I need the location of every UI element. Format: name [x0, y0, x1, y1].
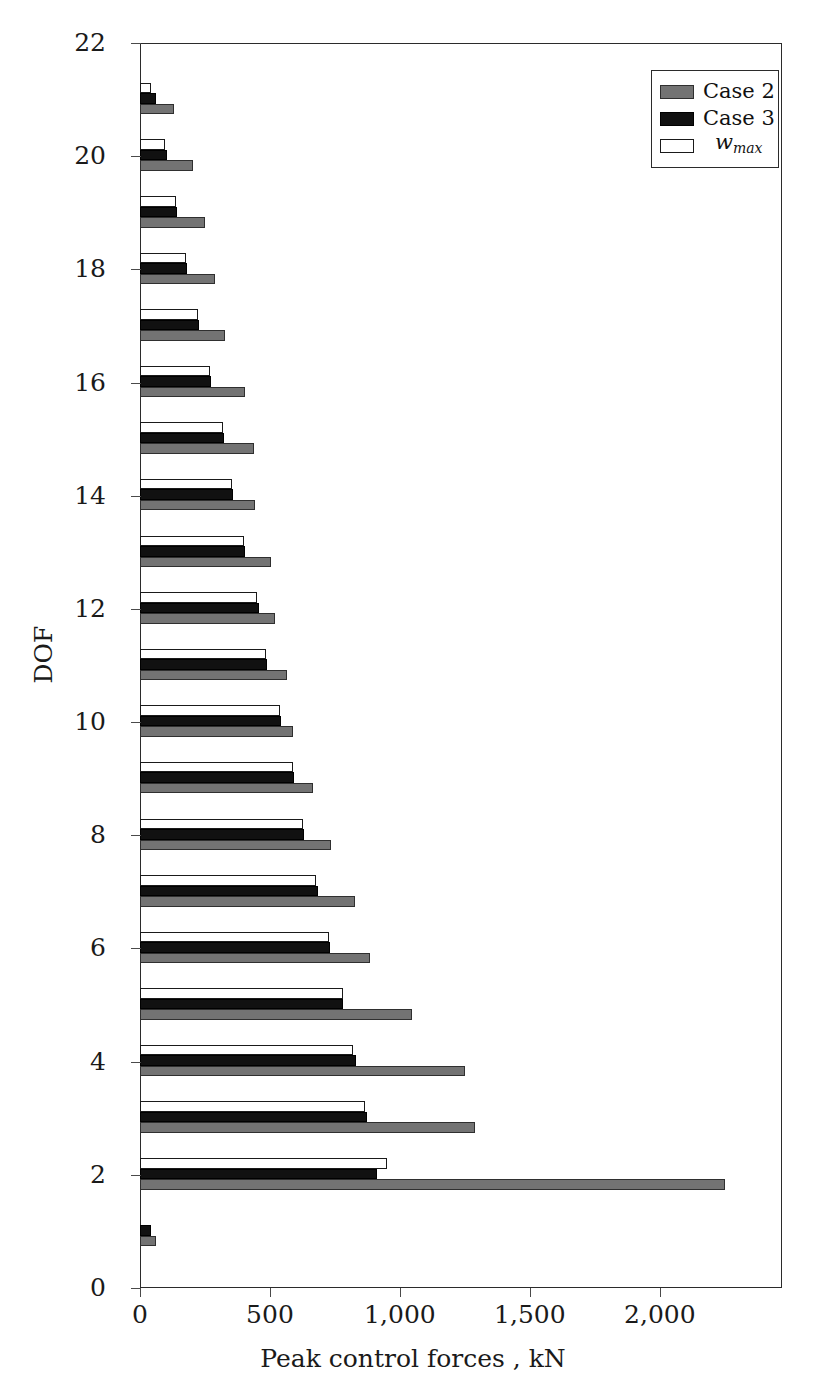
y-tick-mark	[131, 835, 141, 836]
bar-case-2-dof-19	[140, 217, 205, 228]
bar-case-3-dof-4	[140, 1055, 356, 1066]
y-tick-mark	[131, 156, 141, 157]
legend-label: Case 3	[703, 107, 775, 130]
y-tick-label: 18	[0, 255, 120, 283]
y-tick-label: 2	[0, 1161, 120, 1189]
bar-case-3-dof-5	[140, 999, 343, 1010]
bar-w-max-dof-5	[140, 988, 343, 999]
y-tick-mark	[131, 609, 141, 610]
y-tick-label: 10	[0, 708, 120, 736]
bar-case-3-dof-9	[140, 772, 294, 783]
legend-swatch-wmax	[660, 139, 694, 153]
y-tick-label: 20	[0, 142, 120, 170]
bar-case-2-dof-18	[140, 274, 215, 285]
legend-swatch-case2	[660, 85, 694, 99]
bar-w-max-dof-3	[140, 1101, 365, 1112]
bar-case-3-dof-15	[140, 433, 224, 444]
bar-case-3-dof-11	[140, 659, 267, 670]
legend-item: Case 2	[660, 78, 770, 105]
bar-case-3-dof-1	[140, 1225, 151, 1236]
bar-case-3-dof-17	[140, 320, 199, 331]
bar-case-3-dof-7	[140, 886, 318, 897]
y-tick-mark	[131, 43, 141, 44]
legend-label: Case 2	[703, 80, 775, 103]
x-tick-mark	[270, 1288, 271, 1297]
bar-w-max-dof-4	[140, 1045, 353, 1056]
x-tick-label: 500	[246, 1300, 294, 1330]
bar-case-2-dof-3	[140, 1122, 475, 1133]
bar-case-2-dof-6	[140, 953, 370, 964]
y-tick-label: 12	[0, 595, 120, 623]
bar-case-2-dof-7	[140, 896, 355, 907]
bar-w-max-dof-19	[140, 196, 176, 207]
bar-w-max-dof-20	[140, 139, 165, 150]
bar-w-max-dof-9	[140, 762, 293, 773]
x-tick-label: 1,500	[494, 1300, 566, 1330]
y-tick-mark	[131, 1062, 141, 1063]
bar-w-max-dof-2	[140, 1158, 387, 1169]
y-tick-mark	[131, 383, 141, 384]
bar-w-max-dof-12	[140, 592, 257, 603]
bar-case-2-dof-2	[140, 1179, 725, 1190]
y-tick-label: 4	[0, 1048, 120, 1076]
bar-case-2-dof-9	[140, 783, 313, 794]
y-tick-label: 8	[0, 821, 120, 849]
y-tick-label: 22	[0, 29, 120, 57]
x-tick-mark	[140, 1288, 141, 1297]
y-tick-mark	[131, 496, 141, 497]
bar-case-2-dof-1	[140, 1236, 156, 1247]
x-tick-label: 0	[132, 1300, 148, 1330]
bar-case-2-dof-12	[140, 613, 275, 624]
y-tick-label: 16	[0, 369, 120, 397]
x-tick-mark	[530, 1288, 531, 1297]
bar-case-3-dof-6	[140, 942, 330, 953]
bar-case-2-dof-20	[140, 160, 193, 171]
legend-label: wmax	[715, 131, 763, 160]
legend-item: Case 3	[660, 105, 770, 132]
bar-case-2-dof-4	[140, 1066, 465, 1077]
y-tick-mark	[131, 722, 141, 723]
y-tick-mark	[131, 1175, 141, 1176]
bar-case-2-dof-10	[140, 726, 293, 737]
y-tick-mark	[131, 948, 141, 949]
bar-w-max-dof-10	[140, 705, 280, 716]
bar-w-max-dof-15	[140, 422, 223, 433]
bar-case-3-dof-19	[140, 207, 177, 218]
x-tick-mark	[660, 1288, 661, 1297]
bar-w-max-dof-14	[140, 479, 232, 490]
bar-case-2-dof-15	[140, 443, 254, 454]
x-tick-mark	[400, 1288, 401, 1297]
bar-case-2-dof-5	[140, 1009, 412, 1020]
bar-w-max-dof-18	[140, 253, 186, 264]
bar-w-max-dof-7	[140, 875, 316, 886]
y-tick-label: 14	[0, 482, 120, 510]
bar-case-2-dof-13	[140, 557, 271, 568]
y-tick-mark	[131, 269, 141, 270]
x-tick-label: 2,000	[624, 1300, 696, 1330]
legend: Case 2Case 3wmax	[651, 70, 779, 168]
y-axis-label: DOF	[29, 585, 58, 725]
bar-case-3-dof-21	[140, 93, 156, 104]
y-tick-mark	[131, 1288, 141, 1289]
legend-item: wmax	[660, 132, 770, 159]
bar-case-3-dof-2	[140, 1169, 377, 1180]
bar-case-2-dof-8	[140, 840, 331, 851]
bar-case-2-dof-14	[140, 500, 255, 511]
bar-w-max-dof-11	[140, 649, 266, 660]
bar-w-max-dof-21	[140, 83, 151, 94]
bar-case-2-dof-16	[140, 387, 245, 398]
x-tick-label: 1,000	[364, 1300, 436, 1330]
chart-canvas: 05001,0001,5002,000 0246810121416182022 …	[0, 0, 826, 1400]
bar-case-3-dof-8	[140, 829, 304, 840]
bar-case-3-dof-13	[140, 546, 245, 557]
y-tick-label: 0	[0, 1274, 120, 1302]
bar-case-2-dof-21	[140, 104, 174, 115]
bar-case-3-dof-18	[140, 263, 187, 274]
bar-w-max-dof-6	[140, 932, 329, 943]
bar-case-3-dof-16	[140, 376, 211, 387]
bar-w-max-dof-17	[140, 309, 198, 320]
bar-case-3-dof-12	[140, 603, 259, 614]
bar-w-max-dof-8	[140, 819, 303, 830]
bar-w-max-dof-16	[140, 366, 210, 377]
bar-case-2-dof-11	[140, 670, 287, 681]
